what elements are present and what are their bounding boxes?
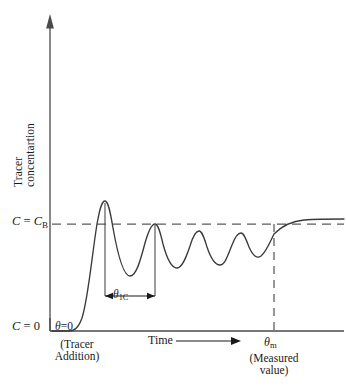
time-axis-arrow [176,337,241,345]
y-tick-label-zero: C = 0 [12,320,40,333]
c0-equals: = [20,319,33,333]
theta-zero-value: 0 [67,320,73,332]
theta-m-subscript: m [270,340,277,350]
origin-label-theta-zero: θ=0 [55,320,73,332]
y-axis [46,14,54,331]
c0-value: 0 [34,319,40,333]
theta-1c-subscript: 1C [119,293,129,302]
y-axis-title: Tracer concentartion [13,75,35,235]
theta-1c-arrow-left-head [105,293,113,299]
cb-value-symbol: C [34,214,42,228]
tracer-addition-line2: Addition) [55,350,100,362]
circulation-time-measure [105,203,155,299]
theta-1c-arrow-right-head [147,293,155,299]
measured-value-line2: value) [260,364,289,376]
tracer-response-curve [52,201,344,331]
measured-value-annotation: (Measured value) [238,352,310,376]
cb-subscript: B [42,220,48,230]
cb-equals: = [20,214,33,228]
x-axis-title: Time [148,334,173,347]
chart-canvas [0,0,346,391]
y-axis-title-text: Tracer concentartion [12,123,36,187]
tracer-concentration-chart: Tracer concentartion C = CB C = 0 θ=0 (T… [0,0,346,391]
measured-value-line1: (Measured [249,352,298,364]
tracer-addition-annotation: (Tracer Addition) [42,338,112,362]
x-tick-label-theta-m: θm [264,336,277,350]
tracer-addition-line1: (Tracer [60,338,93,350]
y-tick-label-cb: C = CB [12,215,48,230]
circulation-time-label: θ1C [113,288,128,303]
